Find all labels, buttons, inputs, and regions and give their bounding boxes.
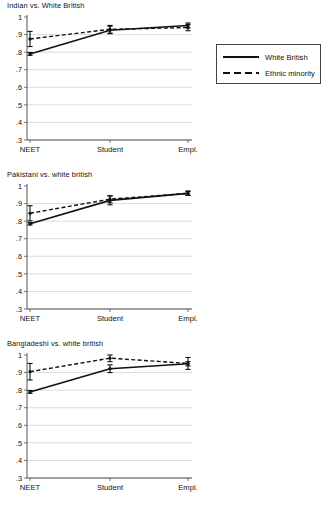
y-tick-label: .8 [16,48,22,57]
y-tick-label: 1 [18,13,22,22]
x-tick-label: NEET [20,145,41,154]
legend-entry: White British [217,49,322,65]
y-tick-label: .4 [16,456,22,465]
data-point-marker [186,192,189,195]
x-tick-label: Empl. [178,314,197,323]
data-point-marker [108,29,111,32]
chart-title: Bangladeshi vs. white british [7,339,103,348]
data-point-marker [28,390,31,393]
y-tick-label: 1 [18,351,22,360]
y-tick-label: .9 [16,30,22,39]
legend-entry: Ethnic minority [217,65,322,81]
y-tick-label: .6 [16,421,22,430]
data-point-marker [28,37,31,40]
data-point-marker [108,367,111,370]
y-tick-label: .7 [16,65,22,74]
chart-panel: Indian vs. White British1.9.8.7.6.5.4.3N… [0,0,329,169]
plot-area: 1.9.8.7.6.5.4.3NEETStudentEmpl. [0,169,329,338]
y-tick-label: .8 [16,386,22,395]
legend-label: Ethnic minority [265,69,315,78]
y-tick-label: .8 [16,217,22,226]
legend-box: White BritishEthnic minority [216,44,321,84]
data-point-marker [28,52,31,55]
data-point-marker [28,370,31,373]
x-tick-label: NEET [20,483,41,492]
data-point-marker [28,212,31,215]
x-tick-label: Student [97,483,124,492]
y-tick-label: .9 [16,199,22,208]
chart-title: Indian vs. White British [7,1,85,10]
y-tick-label: .5 [16,270,22,279]
data-point-marker [28,222,31,225]
y-tick-label: .9 [16,368,22,377]
chart-panel: Bangladeshi vs. white british1.9.8.7.6.5… [0,338,329,507]
data-point-marker [186,362,189,365]
y-tick-label: .5 [16,439,22,448]
y-tick-label: .6 [16,252,22,261]
chart-title: Pakistani vs. white british [7,170,92,179]
chart-panel: Pakistani vs. white british1.9.8.7.6.5.4… [0,169,329,338]
y-tick-label: .6 [16,83,22,92]
x-tick-label: Empl. [178,145,197,154]
y-tick-label: .7 [16,403,22,412]
x-tick-label: Student [97,145,124,154]
y-tick-label: .3 [16,305,22,314]
data-point-marker [186,24,189,27]
x-tick-label: NEET [20,314,41,323]
y-tick-label: .3 [16,474,22,483]
data-point-marker [108,199,111,202]
y-tick-label: .7 [16,234,22,243]
y-tick-label: 1 [18,182,22,191]
y-tick-label: .3 [16,136,22,145]
figure-root: Indian vs. White British1.9.8.7.6.5.4.3N… [0,0,329,507]
y-tick-label: .5 [16,101,22,110]
dashed-line-icon [223,67,259,79]
y-tick-label: .4 [16,118,22,127]
x-tick-label: Student [97,314,124,323]
plot-area: 1.9.8.7.6.5.4.3NEETStudentEmpl. [0,338,329,507]
plot-area: 1.9.8.7.6.5.4.3NEETStudentEmpl. [0,0,329,169]
solid-line-icon [223,51,259,63]
x-tick-label: Empl. [178,483,197,492]
y-tick-label: .4 [16,287,22,296]
legend-label: White British [265,53,308,62]
data-point-marker [108,357,111,360]
